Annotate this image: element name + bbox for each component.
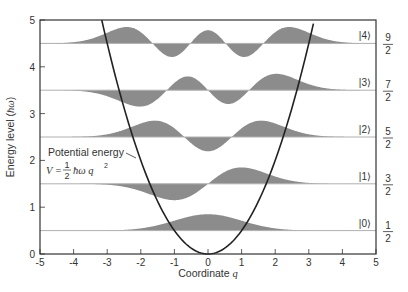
wavefunction-0 — [40, 214, 376, 230]
x-tick-label: 1 — [239, 257, 245, 268]
y-tick-label: 2 — [29, 155, 35, 166]
svg-text:2: 2 — [104, 162, 108, 169]
svg-text:2: 2 — [64, 171, 69, 181]
svg-text:1: 1 — [64, 160, 69, 170]
energy-fraction-numerator: 5 — [385, 126, 391, 137]
energy-fraction-denominator: 2 — [385, 233, 391, 244]
potential-formula: V = 1 2 ħω q 2 — [46, 160, 108, 181]
energy-fraction-numerator: 3 — [385, 173, 391, 184]
wavefunction-4 — [40, 27, 376, 57]
energy-fraction-denominator: 2 — [385, 186, 391, 197]
energy-baselines — [40, 43, 376, 230]
energy-fraction-denominator: 2 — [385, 92, 391, 103]
x-tick-label: -2 — [136, 257, 145, 268]
x-tick-label: -5 — [36, 257, 45, 268]
x-tick-label: -3 — [103, 257, 112, 268]
x-axis-title: Coordinate q — [178, 267, 238, 279]
state-ket-label: |3⟩ — [359, 77, 371, 88]
energy-fraction-numerator: 9 — [385, 32, 391, 43]
y-axis-title: Energy level (ħω) — [4, 97, 16, 177]
state-ket-label: |1⟩ — [359, 171, 371, 182]
state-ket-label: |4⟩ — [359, 30, 371, 41]
x-axis-ticks: -5-4-3-2-1012345 — [36, 249, 380, 268]
svg-text:ħω q: ħω q — [73, 165, 94, 176]
x-tick-label: 4 — [340, 257, 346, 268]
y-tick-label: 4 — [29, 62, 35, 73]
energy-fraction-numerator: 1 — [385, 220, 391, 231]
y-tick-label: 5 — [29, 15, 35, 26]
state-ket-label: |0⟩ — [359, 218, 371, 229]
x-tick-label: 3 — [306, 257, 312, 268]
energy-fraction-denominator: 2 — [385, 139, 391, 150]
potential-energy-label: Potential energy — [48, 146, 125, 158]
y-tick-label: 3 — [29, 109, 35, 120]
potential-label-leader — [126, 153, 136, 158]
energy-fraction-denominator: 2 — [385, 45, 391, 56]
svg-text:V =: V = — [46, 165, 62, 176]
y-tick-label: 1 — [29, 202, 35, 213]
wavefunction-fills — [40, 27, 376, 231]
x-tick-label: -4 — [69, 257, 78, 268]
x-tick-label: 5 — [373, 257, 379, 268]
state-ket-label: |2⟩ — [359, 124, 371, 135]
x-tick-label: 2 — [272, 257, 278, 268]
energy-fraction-numerator: 7 — [385, 79, 391, 90]
energy-level-chart: -5-4-3-2-1012345 012345 |0⟩12|1⟩32|2⟩52|… — [0, 0, 408, 292]
y-tick-label: 0 — [29, 249, 35, 260]
